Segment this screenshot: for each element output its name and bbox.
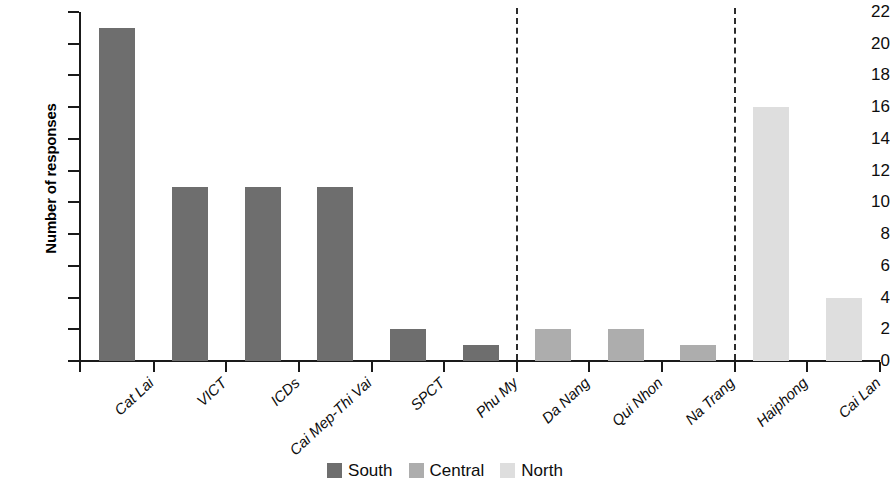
y-axis-tick-label: 14 xyxy=(856,130,890,147)
y-axis-tick-mark xyxy=(68,170,79,172)
legend-item: North xyxy=(500,462,563,479)
x-axis-tick-mark xyxy=(516,362,518,372)
legend-label: Central xyxy=(430,462,485,479)
x-axis-category-label: Cai Lan xyxy=(834,374,883,421)
bar-chart: Number of responses 0246810121416182022 … xyxy=(0,0,890,493)
y-axis-tick-label: 18 xyxy=(856,66,890,83)
legend-swatch-icon xyxy=(409,463,424,478)
x-axis-tick-mark xyxy=(298,362,300,372)
y-axis-tick-label: 6 xyxy=(856,257,890,274)
y-axis-tick-mark xyxy=(68,233,79,235)
chart-legend: SouthCentralNorth xyxy=(0,462,890,479)
y-axis-tick-label: 16 xyxy=(856,98,890,115)
y-axis-tick-mark xyxy=(68,43,79,45)
x-axis-category-label: Na Trang xyxy=(682,374,738,428)
x-axis-category-label: Haiphong xyxy=(753,374,811,430)
group-divider xyxy=(516,8,518,360)
y-axis-line xyxy=(79,12,81,362)
x-axis-tick-mark xyxy=(153,362,155,372)
x-axis-tick-mark xyxy=(371,362,373,372)
x-axis-tick-mark xyxy=(879,362,881,372)
x-axis-category-label: Qui Nhon xyxy=(608,374,665,429)
x-axis-tick-mark xyxy=(806,362,808,372)
y-axis-tick-label: 20 xyxy=(856,35,890,52)
y-axis-title: Number of responses xyxy=(42,49,59,309)
x-axis-category-label: VICT xyxy=(193,374,229,409)
legend-label: South xyxy=(348,462,392,479)
bar xyxy=(99,28,135,361)
y-axis-tick-mark xyxy=(68,201,79,203)
bar xyxy=(826,298,862,361)
group-divider xyxy=(734,8,736,360)
x-axis-tick-mark xyxy=(734,362,736,372)
x-axis-tick-mark xyxy=(443,362,445,372)
y-axis-tick-mark xyxy=(68,11,79,13)
y-axis-tick-mark xyxy=(68,138,79,140)
y-axis-tick-label: 8 xyxy=(856,225,890,242)
legend-swatch-icon xyxy=(500,463,515,478)
bar xyxy=(463,345,499,361)
x-axis-category-label: Da Nang xyxy=(538,374,592,426)
y-axis-tick-label: 22 xyxy=(856,3,890,20)
y-axis-tick-mark xyxy=(68,74,79,76)
bar xyxy=(317,187,353,362)
x-axis-tick-mark xyxy=(661,362,663,372)
y-axis-tick-mark xyxy=(68,360,79,362)
x-axis-tick-mark xyxy=(225,362,227,372)
legend-swatch-icon xyxy=(327,463,342,478)
bar xyxy=(172,187,208,362)
x-axis-tick-mark xyxy=(588,362,590,372)
y-axis-tick-label: 12 xyxy=(856,162,890,179)
y-axis-tick-mark xyxy=(68,328,79,330)
bar xyxy=(535,329,571,361)
legend-label: North xyxy=(521,462,563,479)
bar xyxy=(245,187,281,362)
bar xyxy=(608,329,644,361)
x-axis-category-label: ICDs xyxy=(266,374,302,409)
x-axis-category-label: SPCT xyxy=(407,374,448,413)
y-axis-tick-mark xyxy=(68,106,79,108)
x-axis-tick-mark xyxy=(79,362,81,372)
bar xyxy=(680,345,716,361)
bar xyxy=(753,107,789,361)
legend-item: Central xyxy=(409,462,485,479)
bar xyxy=(390,329,426,361)
x-axis-category-label: Phu My xyxy=(472,374,520,421)
y-axis-tick-mark xyxy=(68,297,79,299)
legend-item: South xyxy=(327,462,392,479)
x-axis-category-label: Cat Lai xyxy=(111,374,157,418)
y-axis-tick-mark xyxy=(68,265,79,267)
y-axis-tick-label: 10 xyxy=(856,193,890,210)
